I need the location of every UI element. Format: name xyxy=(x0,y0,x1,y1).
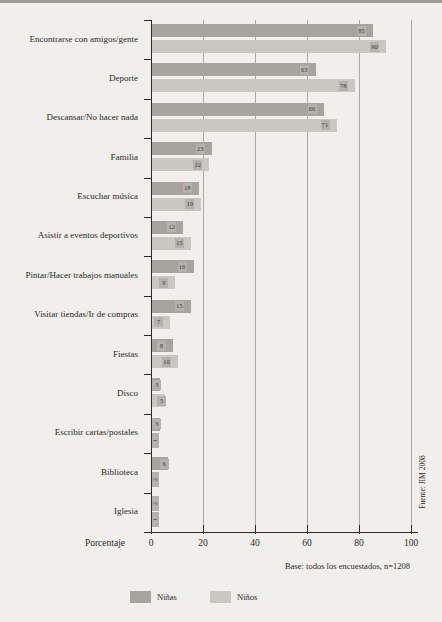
category-label: Asistir a eventos deportivos xyxy=(2,221,145,250)
bar-value-label: 6 xyxy=(160,459,169,469)
bar-ninas: 63 xyxy=(152,63,316,76)
category-label: Pintar/Hacer trabajos manuales xyxy=(2,260,145,289)
bar-value-label: 1 xyxy=(152,433,159,448)
bar-group: Deporte6378 xyxy=(0,59,442,98)
bar-value-label: 22 xyxy=(193,160,202,170)
bar-ninas: 6 xyxy=(152,457,168,470)
bar-ninos: 1 xyxy=(152,434,155,447)
bar-value-label: 15 xyxy=(175,238,184,248)
legend-label-ninas: Niñas xyxy=(157,592,177,602)
category-label: Disco xyxy=(2,378,145,407)
bar-value-label: 18 xyxy=(183,183,192,193)
bar-ninos: 15 xyxy=(152,237,191,250)
bar-group: Pintar/Hacer trabajos manuales169 xyxy=(0,256,442,295)
bar-ninos: 19 xyxy=(152,198,201,211)
bar-ninas: 16 xyxy=(152,260,194,273)
bar-value-label: 10 xyxy=(162,357,171,367)
bar-ninos: 90 xyxy=(152,40,386,53)
bar-ninos: 78 xyxy=(152,79,355,92)
bar-group: Asistir a eventos deportivos1215 xyxy=(0,217,442,256)
legend-swatch-ninas xyxy=(130,591,151,603)
bar-ninas: 85 xyxy=(152,24,373,37)
x-tick-100 xyxy=(411,525,412,534)
category-tick xyxy=(144,178,152,179)
bar-ninos: 5 xyxy=(152,394,165,407)
legend-label-ninos: Niños xyxy=(237,592,257,602)
category-tick xyxy=(144,414,152,415)
bar-ninas: 3 xyxy=(152,418,160,431)
bar-ninas: 3 xyxy=(152,378,160,391)
category-tick xyxy=(144,256,152,257)
x-tick-80 xyxy=(359,525,360,534)
legend-item-ninas: Niñas xyxy=(130,590,177,604)
bar-group: Descansar/No hacer nada6671 xyxy=(0,99,442,138)
bar-group: Encontrarse con amigos/gente8590 xyxy=(0,20,442,59)
bar-value-label: 2 xyxy=(152,472,159,487)
bar-ninos: 22 xyxy=(152,158,209,171)
bar-ninas: 8 xyxy=(152,339,173,352)
bar-value-label: 8 xyxy=(157,341,166,351)
category-label: Fiestas xyxy=(2,339,145,368)
category-label: Iglesia xyxy=(2,497,145,526)
category-tick xyxy=(144,453,152,454)
bar-value-label: 66 xyxy=(308,104,317,114)
x-tick-60 xyxy=(307,525,308,534)
bar-ninas: 18 xyxy=(152,182,199,195)
x-axis-title: Porcentaje xyxy=(45,538,125,548)
category-tick xyxy=(144,335,152,336)
x-tick-20 xyxy=(203,525,204,534)
bar-group: Escribir cartas/postales31 xyxy=(0,414,442,453)
bar-ninos: 2 xyxy=(152,473,157,486)
bar-group: Fiestas810 xyxy=(0,335,442,374)
bar-value-label: 16 xyxy=(178,262,187,272)
bar-group: Visitar tiendas/Ir de compras157 xyxy=(0,296,442,335)
bar-value-label: 3 xyxy=(152,380,161,390)
bar-ninas: 2 xyxy=(152,497,157,510)
legend: Niñas Niños xyxy=(130,590,390,604)
category-tick xyxy=(144,138,152,139)
bar-value-label: 3 xyxy=(152,419,161,429)
bar-value-label: 12 xyxy=(167,222,176,232)
category-tick xyxy=(144,374,152,375)
bar-value-label: 7 xyxy=(154,317,163,327)
bar-group: Disco35 xyxy=(0,374,442,413)
bar-value-label: 5 xyxy=(157,396,166,406)
x-tick-label-40: 40 xyxy=(240,538,270,548)
bar-ninos: 9 xyxy=(152,276,175,289)
category-label: Escuchar música xyxy=(2,182,145,211)
value-axis-line xyxy=(145,532,418,533)
x-tick-label-20: 20 xyxy=(188,538,218,548)
bar-value-label: 71 xyxy=(321,120,330,130)
category-label: Deporte xyxy=(2,63,145,92)
category-tick xyxy=(144,99,152,100)
category-tick xyxy=(144,20,152,21)
category-tick xyxy=(144,296,152,297)
source-note: Fuente: JIM 2008 xyxy=(418,432,430,532)
bar-ninos: 7 xyxy=(152,316,170,329)
bar-value-label: 1 xyxy=(152,512,159,527)
bar-ninas: 15 xyxy=(152,300,191,313)
x-tick-label-100: 100 xyxy=(396,538,426,548)
category-tick xyxy=(144,532,152,533)
bar-value-label: 2 xyxy=(152,496,159,511)
bar-group: Biblioteca62 xyxy=(0,453,442,492)
category-tick xyxy=(144,59,152,60)
category-label: Familia xyxy=(2,142,145,171)
category-tick xyxy=(144,493,152,494)
x-tick-label-80: 80 xyxy=(344,538,374,548)
bar-group: Familia2322 xyxy=(0,138,442,177)
bar-chart-figure: Encontrarse con amigos/gente8590Deporte6… xyxy=(0,0,442,622)
category-label: Visitar tiendas/Ir de compras xyxy=(2,300,145,329)
category-label: Biblioteca xyxy=(2,457,145,486)
bar-ninas: 23 xyxy=(152,142,212,155)
bar-ninas: 12 xyxy=(152,221,183,234)
category-tick xyxy=(144,217,152,218)
x-tick-label-60: 60 xyxy=(292,538,322,548)
bar-value-label: 63 xyxy=(300,65,309,75)
x-tick-40 xyxy=(255,525,256,534)
bar-value-label: 19 xyxy=(185,199,194,209)
bar-group: Escuchar música1819 xyxy=(0,178,442,217)
category-label: Descansar/No hacer nada xyxy=(2,103,145,132)
bar-value-label: 15 xyxy=(175,301,184,311)
bar-group: Iglesia21 xyxy=(0,493,442,532)
